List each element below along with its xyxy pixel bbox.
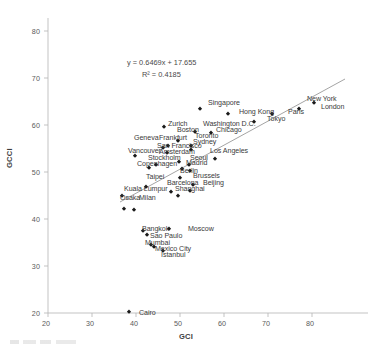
x-tick-50: 50 bbox=[174, 319, 182, 328]
y-axis-title: GCCI bbox=[5, 148, 14, 168]
scatter-chart: New YorkLondonSingaporeHong KongParisTok… bbox=[0, 0, 378, 348]
y-tick-40: 40 bbox=[26, 215, 40, 224]
data-point-label: Moscow bbox=[188, 226, 214, 233]
x-tick-60: 60 bbox=[218, 319, 226, 328]
data-point-label: Tokyo bbox=[267, 116, 285, 123]
y-tick-50: 50 bbox=[26, 168, 40, 177]
y-tick-30: 30 bbox=[26, 262, 40, 271]
axis-lines bbox=[48, 18, 368, 313]
data-point-label: Copenhagen bbox=[137, 161, 177, 168]
x-tick-40: 40 bbox=[130, 319, 138, 328]
data-point-label: Kuala Lumpur bbox=[124, 186, 168, 193]
y-axis-ticks bbox=[44, 31, 48, 313]
data-point-label: Cairo bbox=[139, 310, 156, 317]
data-point-label: Beijing bbox=[203, 180, 224, 187]
data-point-label: Taipei bbox=[146, 174, 164, 181]
x-tick-70: 70 bbox=[262, 319, 270, 328]
trendline-r-squared: R² = 0.4185 bbox=[142, 70, 181, 79]
data-point-label: Istanbul bbox=[161, 252, 185, 259]
data-point-label: Chicago bbox=[216, 127, 242, 134]
trendline-equation: y = 0.6469x + 17.655 bbox=[127, 58, 196, 67]
data-point-label: Singapore bbox=[208, 100, 240, 107]
x-axis-ticks bbox=[48, 313, 312, 317]
x-tick-30: 30 bbox=[86, 319, 94, 328]
data-point-label: Shanghai bbox=[175, 186, 205, 193]
x-axis-title: GCI bbox=[179, 332, 193, 341]
y-tick-20: 20 bbox=[26, 309, 40, 318]
data-point-label: London bbox=[321, 104, 344, 111]
data-point-label: Osaka bbox=[120, 195, 140, 202]
x-tick-80: 80 bbox=[306, 319, 314, 328]
y-tick-80: 80 bbox=[26, 27, 40, 36]
data-point-label: Geneva bbox=[134, 135, 159, 142]
data-point-label: Milan bbox=[139, 195, 156, 202]
y-tick-60: 60 bbox=[26, 121, 40, 130]
y-tick-70: 70 bbox=[26, 74, 40, 83]
data-point-label: Paris bbox=[288, 109, 304, 116]
x-tick-20: 20 bbox=[42, 319, 50, 328]
cropped-caption-artifact bbox=[10, 340, 76, 344]
data-point-label: Los Angeles bbox=[210, 148, 248, 155]
